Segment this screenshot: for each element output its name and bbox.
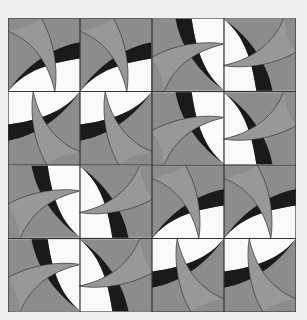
quilt-tile-r3-c3 (224, 239, 296, 313)
quilt-tile-r0-c2 (151, 19, 225, 91)
quilt-tile-r1-c1 (80, 92, 152, 166)
quilt-tile-r1-c0 (8, 92, 80, 166)
quilt-tile-r1-c2 (151, 92, 225, 164)
quilt-tile-r0-c1 (80, 18, 152, 92)
quilt-tile-r2-c2 (152, 165, 224, 239)
cropped-caption (0, 0, 307, 5)
quilt-tile-r2-c1 (79, 166, 153, 238)
quilt-svg (8, 18, 296, 312)
quilt-tile-r2-c0 (8, 166, 81, 238)
quilt-tile-r2-c3 (224, 165, 296, 239)
quilt-tile-r3-c1 (79, 239, 153, 311)
quilt-tile-r0-c0 (8, 18, 80, 92)
quilt-tile-r3-c0 (8, 239, 81, 311)
quilt-tile-r0-c3 (223, 19, 296, 91)
quilt-pattern (8, 18, 296, 312)
quilt-tile-r1-c3 (223, 92, 296, 164)
quilt-tile-r3-c2 (152, 239, 224, 313)
